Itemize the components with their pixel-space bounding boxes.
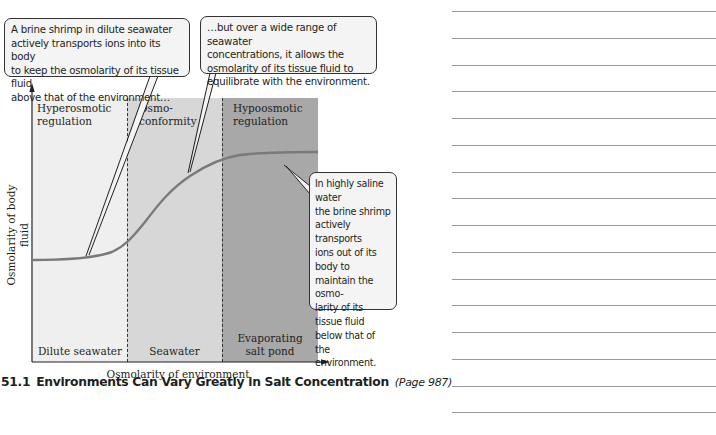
osmoregulation-figure: Hyperosmotic regulation Osmo- conformity… <box>0 0 430 400</box>
note-line <box>452 412 716 413</box>
y-axis-label: Osmolarity of body fluid <box>5 175 31 295</box>
osmolarity-curve <box>33 152 318 260</box>
note-line <box>452 386 716 387</box>
note-line <box>452 65 716 66</box>
callout-hypoosmotic: In highly saline water the brine shrimp … <box>309 172 397 310</box>
note-line <box>452 38 716 39</box>
note-line <box>452 91 716 92</box>
note-line <box>452 118 716 119</box>
caption-title: Environments Can Vary Greatly in Salt Co… <box>36 375 389 389</box>
note-line <box>452 145 716 146</box>
note-line <box>452 172 716 173</box>
note-line <box>452 332 716 333</box>
note-lines <box>452 0 716 435</box>
callout-hyperosmotic: A brine shrimp in dilute seawater active… <box>4 18 190 77</box>
note-line <box>452 305 716 306</box>
caption-page-ref: (Page 987) <box>395 376 452 389</box>
note-line <box>452 359 716 360</box>
note-line <box>452 225 716 226</box>
note-line <box>452 279 716 280</box>
note-line <box>452 11 716 12</box>
note-line <box>452 198 716 199</box>
callout-osmoconformity: …but over a wide range of seawater conce… <box>200 16 377 74</box>
note-line <box>452 252 716 253</box>
figure-caption: 51.1Environments Can Vary Greatly in Sal… <box>1 375 452 389</box>
caption-number: 51.1 <box>1 375 30 389</box>
